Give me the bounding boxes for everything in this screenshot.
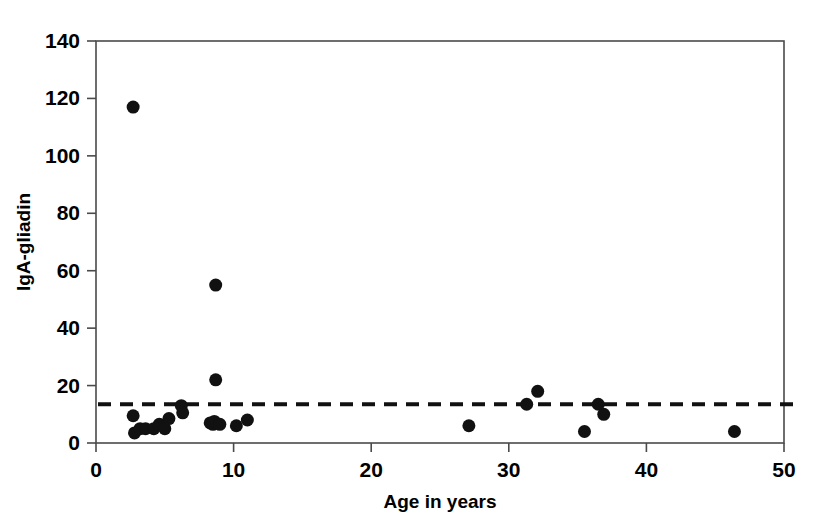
data-point — [531, 385, 544, 398]
y-tick-label: 0 — [68, 431, 80, 454]
data-point — [520, 398, 533, 411]
data-point — [127, 101, 140, 114]
data-point — [230, 419, 243, 432]
data-points-group — [127, 101, 741, 440]
y-tick-label: 120 — [45, 86, 80, 109]
scatter-plot-figure: 020406080100120140 01020304050 Age in ye… — [0, 0, 813, 532]
y-tick-label: 20 — [57, 374, 80, 397]
x-tick-label: 50 — [772, 458, 795, 481]
y-tick-label: 60 — [57, 259, 80, 282]
y-axis-ticks: 020406080100120140 — [45, 29, 96, 454]
x-tick-label: 0 — [90, 458, 102, 481]
data-point — [176, 406, 189, 419]
x-tick-label: 20 — [360, 458, 383, 481]
data-point — [127, 409, 140, 422]
data-point — [209, 373, 222, 386]
data-point — [162, 412, 175, 425]
x-tick-label: 40 — [635, 458, 658, 481]
y-tick-label: 80 — [57, 201, 80, 224]
data-point — [241, 414, 254, 427]
plot-frame — [96, 41, 784, 443]
data-point — [213, 418, 226, 431]
x-tick-label: 30 — [497, 458, 520, 481]
y-tick-label: 140 — [45, 29, 80, 52]
y-axis-title: IgA-gliadin — [13, 193, 34, 291]
y-tick-label: 100 — [45, 144, 80, 167]
x-axis-title: Age in years — [384, 491, 497, 512]
data-point — [728, 425, 741, 438]
data-point — [597, 408, 610, 421]
x-tick-label: 10 — [222, 458, 245, 481]
plot-canvas: 020406080100120140 01020304050 Age in ye… — [0, 0, 813, 532]
data-point — [578, 425, 591, 438]
data-point — [209, 279, 222, 292]
x-axis-ticks: 01020304050 — [90, 443, 796, 481]
y-tick-label: 40 — [57, 316, 80, 339]
data-point — [462, 419, 475, 432]
